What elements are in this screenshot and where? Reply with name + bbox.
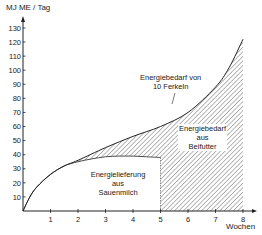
y-tick-label: 130 (8, 24, 21, 33)
x-axis-label: Wochen (226, 222, 255, 231)
y-axis-arrow (21, 16, 25, 22)
annotation-milk-line2: aus (83, 179, 153, 188)
blank-region (24, 155, 68, 211)
x-tick-label: 3 (103, 215, 107, 224)
y-tick-label: 100 (8, 66, 21, 75)
y-tick-label: 50 (13, 136, 21, 145)
y-axis-label: MJ ME / Tag (6, 3, 50, 12)
x-tick-label: 1 (48, 215, 52, 224)
annotation-beifutter-line3: Beifutter (179, 142, 226, 151)
x-tick-label: 7 (213, 215, 217, 224)
x-tick-label: 4 (131, 215, 135, 224)
y-tick-label: 20 (13, 179, 21, 188)
demand-label-leader (172, 93, 175, 104)
x-axis-arrow (252, 209, 257, 213)
y-tick-label: 40 (13, 150, 21, 159)
y-tick-label: 30 (13, 164, 21, 173)
annotation-demand-line1: Energiebedarf von (140, 73, 201, 82)
annotation-beifutter-line2: aus (179, 133, 226, 142)
y-tick-label: 90 (13, 80, 21, 89)
y-tick-label: 10 (13, 193, 21, 202)
x-tick-label: 6 (186, 215, 190, 224)
annotation-milk: Energielieferung aus Sauenmilch (83, 170, 153, 197)
x-tick-label: 5 (158, 215, 162, 224)
x-tick-label: 2 (76, 215, 80, 224)
annotation-beifutter-line1: Energiebedarf (179, 124, 226, 133)
annotation-milk-line1: Energielieferung (83, 170, 153, 179)
annotation-demand: Energiebedarf von 10 Ferkeln (140, 73, 201, 91)
y-tick-label: 80 (13, 94, 21, 103)
y-tick-label: 120 (8, 38, 21, 47)
y-tick-label: 70 (13, 108, 21, 117)
chart-canvas: 12345678102030405060708090100110120130 (0, 0, 262, 235)
annotation-milk-line3: Sauenmilch (83, 188, 153, 197)
y-tick-label: 110 (9, 52, 21, 61)
annotation-beifutter: Energiebedarf aus Beifutter (178, 124, 227, 151)
annotation-demand-line2: 10 Ferkeln (140, 82, 201, 91)
y-tick-label: 60 (13, 122, 21, 131)
